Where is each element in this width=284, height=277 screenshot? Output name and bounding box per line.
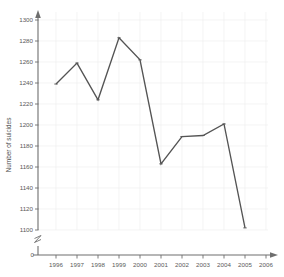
x-tick-label: 1999 [112, 261, 126, 268]
y-tick-label: 1120 [20, 205, 34, 212]
x-tick-label: 2000 [133, 261, 147, 268]
y-axis-title: Number of suicides [5, 118, 12, 173]
y-tick-label: 1200 [19, 121, 33, 128]
x-tick-label: 1996 [49, 261, 63, 268]
x-tick-label: 2004 [217, 261, 231, 268]
x-tick-label: 1998 [91, 261, 105, 268]
y-axis-origin-label: 0 [31, 251, 35, 258]
chart-container: 1100112011401160118012001220124012601280… [0, 0, 284, 277]
y-tick-label: 1300 [19, 16, 33, 23]
x-tick-label: 2001 [154, 261, 168, 268]
chart-background [0, 0, 284, 277]
x-tick-label: 1997 [70, 261, 84, 268]
y-tick-label: 1240 [19, 79, 33, 86]
y-tick-label: 1260 [19, 58, 33, 65]
y-tick-label: 1220 [19, 100, 33, 107]
x-tick-label: 2006 [259, 261, 273, 268]
y-tick-label: 1140 [20, 184, 34, 191]
line-chart: 1100112011401160118012001220124012601280… [0, 0, 284, 277]
x-tick-label: 2003 [196, 261, 210, 268]
y-tick-label: 1160 [20, 163, 34, 170]
y-tick-label: 1100 [20, 226, 34, 233]
y-tick-label: 1180 [20, 142, 34, 149]
y-tick-label: 1280 [19, 37, 33, 44]
x-tick-label: 2002 [175, 261, 189, 268]
x-tick-label: 2005 [238, 261, 252, 268]
